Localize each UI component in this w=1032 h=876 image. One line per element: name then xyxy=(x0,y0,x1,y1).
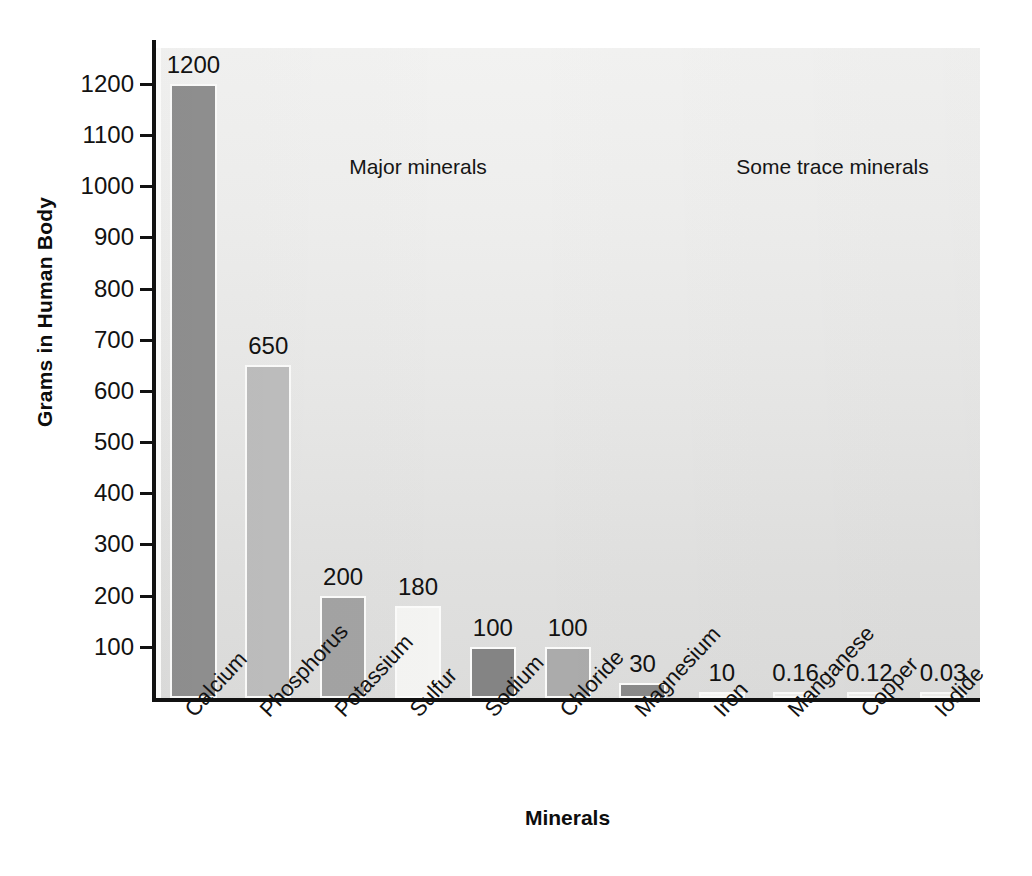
x-axis-title: Minerals xyxy=(155,806,980,830)
y-axis-title: Grams in Human Body xyxy=(33,162,57,462)
y-axis-tick-label: 1200 xyxy=(48,72,134,96)
y-axis-tick xyxy=(140,492,156,495)
y-axis-tick-label: 200 xyxy=(48,584,134,608)
y-axis-tick-label: 100 xyxy=(48,635,134,659)
y-axis-tick-label: 700 xyxy=(48,328,134,352)
y-axis-tick-label: 300 xyxy=(48,532,134,556)
y-axis-tick xyxy=(140,83,156,86)
bar-value-label: 200 xyxy=(300,565,386,589)
y-axis-tick xyxy=(140,646,156,649)
y-axis-tick xyxy=(140,185,156,188)
bar-value-label: 650 xyxy=(225,334,311,358)
bar-value-label: 100 xyxy=(450,616,536,640)
y-axis-tick-label: 1100 xyxy=(48,123,134,147)
y-axis-tick xyxy=(140,288,156,291)
y-axis-tick-label: 400 xyxy=(48,481,134,505)
bar xyxy=(170,84,216,698)
bar-value-label: 1200 xyxy=(150,53,236,77)
y-axis-tick xyxy=(140,236,156,239)
y-axis-tick-label: 600 xyxy=(48,379,134,403)
y-axis-tick xyxy=(140,595,156,598)
y-axis-tick xyxy=(140,339,156,342)
bar-value-label: 180 xyxy=(375,575,461,599)
plot-area: Major mineralsSome trace minerals xyxy=(156,48,980,698)
y-axis-tick-label: 900 xyxy=(48,225,134,249)
y-axis-tick-label: 800 xyxy=(48,277,134,301)
section-label: Some trace minerals xyxy=(685,155,980,179)
y-axis-tick xyxy=(140,390,156,393)
y-axis-tick xyxy=(140,134,156,137)
bar xyxy=(245,365,291,698)
y-axis-tick-label: 500 xyxy=(48,430,134,454)
bar-value-label: 100 xyxy=(525,616,611,640)
y-axis-tick xyxy=(140,441,156,444)
section-label: Major minerals xyxy=(156,155,680,179)
y-axis-tick xyxy=(140,543,156,546)
y-axis-tick-label: 1000 xyxy=(48,174,134,198)
bar-chart-figure: Grams in Human Body Minerals 10020030040… xyxy=(0,0,1032,876)
section-divider xyxy=(156,48,161,698)
